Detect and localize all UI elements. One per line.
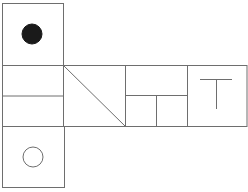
face-middle-4 bbox=[188, 66, 248, 127]
face-bottom bbox=[3, 127, 65, 188]
face-middle-1 bbox=[3, 66, 64, 127]
open-circle-icon bbox=[23, 147, 43, 167]
face-middle-3 bbox=[126, 66, 188, 127]
face-middle-2 bbox=[64, 66, 126, 127]
face-top bbox=[3, 4, 64, 66]
cube-net-diagram bbox=[0, 0, 248, 192]
filled-circle-icon bbox=[22, 24, 42, 44]
diagonal-line-icon bbox=[64, 66, 126, 127]
